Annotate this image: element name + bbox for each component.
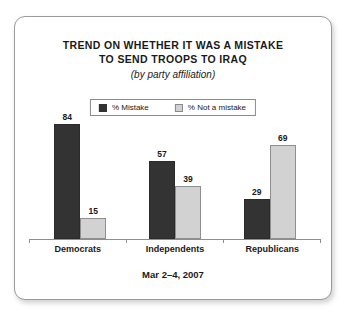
page-title-line-1: TREND ON WHETHER IT WAS A MISTAKE: [15, 39, 331, 53]
legend-label-mistake: % Mistake: [112, 103, 149, 112]
bar-value-republicans-mistake: 29: [244, 187, 270, 197]
bar-value-democrats-mistake: 84: [54, 112, 80, 122]
legend-label-not-a-mistake: % Not a mistake: [188, 103, 246, 112]
chart-title-block: TREND ON WHETHER IT WAS A MISTAKE TO SEN…: [15, 39, 331, 82]
bar-value-independents-mistake: 57: [149, 149, 175, 159]
bar-wrap-republicans-mistake: 29: [244, 123, 270, 239]
bar-wrap-independents-mistake: 57: [149, 123, 175, 239]
chart-footer-date: Mar 2–4, 2007: [15, 269, 331, 280]
chart-legend: % Mistake % Not a mistake: [90, 99, 256, 116]
x-axis-tick-right: [320, 239, 321, 243]
x-axis-label-democrats: Democrats: [29, 244, 126, 254]
bar-area: 84 15 57 39 29: [33, 123, 317, 239]
bar-group-democrats: 84 15: [33, 123, 128, 239]
page-title-line-2: TO SEND TROOPS TO IRAQ: [15, 53, 331, 67]
x-axis-label-republicans: Republicans: [224, 244, 321, 254]
bar-independents-not-a-mistake: [175, 186, 201, 239]
legend-swatch-dark-icon: [99, 104, 107, 112]
legend-item-mistake: % Mistake: [99, 103, 149, 112]
plot-area: 84 15 57 39 29: [33, 123, 317, 239]
bar-independents-mistake: [149, 161, 175, 239]
legend-swatch-light-icon: [175, 104, 183, 112]
chart-subtitle: (by party affiliation): [15, 67, 331, 82]
legend-item-not-a-mistake: % Not a mistake: [175, 103, 246, 112]
x-axis-tick-1: [126, 239, 127, 243]
bar-group-republicans: 29 69: [222, 123, 317, 239]
x-axis-tick-left: [29, 239, 30, 243]
bar-democrats-mistake: [54, 124, 80, 239]
bar-republicans-mistake: [244, 199, 270, 239]
bar-wrap-democrats-mistake: 84: [54, 123, 80, 239]
bar-value-democrats-not-a-mistake: 15: [80, 206, 106, 216]
bar-republicans-not-a-mistake: [270, 145, 296, 239]
bar-wrap-democrats-not-a-mistake: 15: [80, 123, 106, 239]
bar-value-independents-not-a-mistake: 39: [175, 174, 201, 184]
bar-wrap-independents-not-a-mistake: 39: [175, 123, 201, 239]
x-axis-label-independents: Independents: [126, 244, 223, 254]
x-axis-tick-2: [223, 239, 224, 243]
x-axis-category-labels: Democrats Independents Republicans: [29, 244, 321, 254]
x-axis-line: [29, 239, 321, 240]
bar-democrats-not-a-mistake: [80, 218, 106, 239]
chart-card: TREND ON WHETHER IT WAS A MISTAKE TO SEN…: [14, 16, 332, 300]
bar-wrap-republicans-not-a-mistake: 69: [270, 123, 296, 239]
bar-value-republicans-not-a-mistake: 69: [270, 133, 296, 143]
bar-group-independents: 57 39: [128, 123, 223, 239]
